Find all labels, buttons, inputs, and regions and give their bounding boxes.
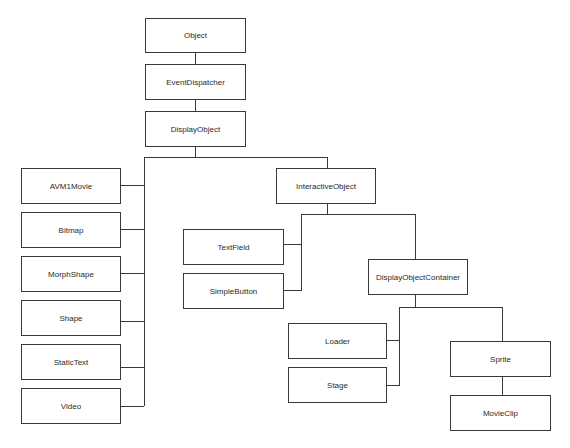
edge-to-textfield (283, 244, 301, 245)
edge-displayobjectcontainer-left-trunk (399, 307, 400, 386)
node-textfield: TextField (183, 229, 284, 265)
node-avm1movie: AVM1Movie (21, 168, 121, 204)
edge-to-displayobjectcontainer (415, 214, 416, 259)
node-displayobject: DisplayObject (145, 111, 246, 147)
edge-to-bitmap (120, 229, 144, 230)
edge-displayobject-bus (144, 157, 328, 158)
edge-eventdispatcher-displayobject (195, 99, 196, 111)
node-video: Video (21, 388, 121, 424)
node-object: Object (145, 18, 246, 53)
edge-interactiveobject-stem (327, 203, 328, 214)
edge-to-sprite (502, 307, 503, 341)
edge-displayobject-stem (195, 146, 196, 157)
edge-to-stage (386, 385, 399, 386)
node-statictext: StaticText (21, 344, 121, 380)
node-morphshape: MorphShape (21, 256, 121, 292)
edge-to-morphshape (120, 273, 144, 274)
node-bitmap: Bitmap (21, 212, 121, 248)
edge-to-simplebutton (283, 290, 301, 291)
edge-sprite-movieclip (502, 376, 503, 395)
node-stage: Stage (288, 367, 387, 403)
node-eventdispatcher: EventDispatcher (145, 64, 246, 100)
edge-interactiveobject-left-trunk (301, 214, 302, 291)
node-loader: Loader (288, 323, 387, 359)
node-movieclip: MovieClip (450, 395, 551, 431)
edge-to-video (120, 406, 144, 407)
edge-interactiveobject-bus (301, 214, 416, 215)
edge-displayobjectcontainer-stem (415, 294, 416, 307)
node-simplebutton: SimpleButton (183, 273, 284, 309)
edge-displayobjectcontainer-bus (399, 307, 503, 308)
edge-to-statictext (120, 367, 144, 368)
edge-to-loader (386, 340, 399, 341)
edge-to-interactiveobject (327, 157, 328, 168)
edge-displayobject-left-trunk (144, 157, 145, 406)
node-interactiveobject: InteractiveObject (276, 168, 376, 204)
node-shape: Shape (21, 300, 121, 336)
node-sprite: Sprite (450, 341, 551, 377)
edge-to-avm1movie (120, 185, 144, 186)
edge-to-shape (120, 321, 144, 322)
edge-object-eventdispatcher (195, 52, 196, 64)
node-displayobjectcontainer: DisplayObjectContainer (368, 259, 468, 295)
